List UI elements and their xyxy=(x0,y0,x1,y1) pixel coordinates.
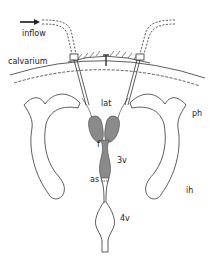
label-inflow: inflow xyxy=(22,30,46,38)
right-cannula-block xyxy=(136,54,144,60)
left-cannula-block xyxy=(70,54,78,60)
diagram-drawing xyxy=(0,0,209,262)
right-ventricle-inner-line xyxy=(118,98,128,118)
label-fourth-ventricle: 4v xyxy=(120,215,130,223)
inflow-arrow-icon xyxy=(20,19,40,25)
right-lateral-ventricle-body xyxy=(105,116,120,142)
label-third-ventricle: 3v xyxy=(117,157,127,165)
right-cannula-tube xyxy=(140,20,175,54)
label-inferior-horn: ih xyxy=(186,187,193,195)
label-posterior-horn: ph xyxy=(192,110,202,118)
label-aqueduct: as xyxy=(90,176,99,184)
third-ventricle xyxy=(100,140,111,178)
left-lateral-ventricle-outline xyxy=(24,94,80,199)
right-cannula-needle xyxy=(125,60,140,105)
aqueduct-of-sylvius xyxy=(101,178,109,202)
right-lateral-ventricle-outline xyxy=(130,94,186,199)
ventricle-perfusion-diagram: inflow calvarium lat f 3v as 4v ph ih xyxy=(0,0,209,262)
left-cannula-needle xyxy=(74,60,89,105)
left-lateral-ventricle-body xyxy=(89,116,104,142)
label-calvarium: calvarium xyxy=(8,58,48,66)
left-cannula-tube xyxy=(42,20,76,54)
label-foramen: f xyxy=(97,141,100,149)
left-ventricle-inner-line xyxy=(82,98,92,118)
fourth-ventricle xyxy=(95,202,114,252)
label-lateral-ventricle: lat xyxy=(101,100,111,108)
